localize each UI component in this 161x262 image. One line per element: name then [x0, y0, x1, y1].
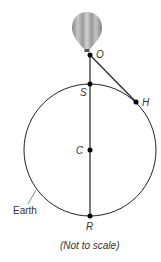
label-R: R: [86, 221, 93, 232]
label-C: C: [76, 145, 84, 156]
earth-leader-line: [28, 190, 36, 204]
point-R: [88, 214, 93, 219]
line-O-H: [90, 55, 136, 102]
label-S: S: [80, 87, 87, 98]
point-C: [88, 148, 93, 153]
point-H: [134, 100, 139, 105]
not-to-scale-note: (Not to scale): [60, 240, 119, 251]
point-O: [88, 53, 93, 58]
label-H: H: [142, 97, 150, 108]
point-S: [88, 82, 93, 87]
label-earth: Earth: [13, 205, 37, 216]
label-O: O: [96, 49, 104, 60]
balloon-icon: [72, 12, 102, 52]
earth-horizon-diagram: O S H C R Earth (Not to scale): [0, 0, 161, 262]
